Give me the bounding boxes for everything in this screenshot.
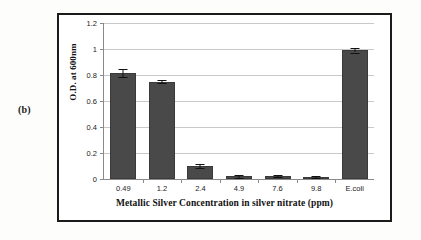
bar-group xyxy=(335,23,374,179)
panel-label: (b) xyxy=(18,104,31,115)
x-tick-label: E.coli xyxy=(346,184,364,193)
error-bar-cap-top xyxy=(119,69,128,70)
x-tick-label: 4.9 xyxy=(234,184,244,193)
x-tick-mark xyxy=(181,179,182,183)
y-tick-label: 0.4 xyxy=(87,123,97,132)
error-bar-cap-top xyxy=(350,48,359,49)
error-bar-cap-bottom xyxy=(196,168,205,169)
bar-series xyxy=(104,23,374,179)
figure-frame: O.D. at 600nm 00.20.40.60.811.2 0.491.22… xyxy=(57,13,392,222)
error-bar-cap-top xyxy=(234,175,243,176)
x-tick-label: 9.8 xyxy=(311,184,321,193)
error-bar-cap-bottom xyxy=(312,178,321,179)
y-tick-label: 0.2 xyxy=(87,149,97,158)
error-bar-cap-top xyxy=(312,176,321,177)
bar-group xyxy=(297,23,336,179)
y-tick-label: 0.8 xyxy=(87,71,97,80)
error-bar-cap-bottom xyxy=(119,77,128,78)
x-tick-mark xyxy=(335,179,336,183)
y-tick-mark xyxy=(100,179,104,180)
error-bar-cap-bottom xyxy=(234,178,243,179)
error-bar xyxy=(123,69,124,76)
error-bar-cap-bottom xyxy=(157,83,166,84)
x-tick-label: 7.6 xyxy=(272,184,282,193)
error-bar-cap-top xyxy=(196,164,205,165)
error-bar-cap-bottom xyxy=(273,177,282,178)
x-tick-mark xyxy=(258,179,259,183)
error-bar-cap-bottom xyxy=(350,53,359,54)
x-tick-label: 0.49 xyxy=(116,184,131,193)
bar-chart: O.D. at 600nm 00.20.40.60.811.2 0.491.22… xyxy=(59,15,390,220)
bar xyxy=(149,82,175,180)
bar-group xyxy=(143,23,182,179)
bar-group xyxy=(220,23,259,179)
bar xyxy=(110,73,136,179)
y-tick-label: 0 xyxy=(93,175,97,184)
x-tick-mark xyxy=(143,179,144,183)
x-tick-label: 2.4 xyxy=(195,184,205,193)
x-tick-mark xyxy=(220,179,221,183)
error-bar-cap-top xyxy=(273,175,282,176)
y-tick-label: 0.6 xyxy=(87,97,97,106)
x-axis-title: Metallic Silver Concentration in silver … xyxy=(59,198,390,208)
gridline xyxy=(104,179,374,180)
error-bar-cap-top xyxy=(157,80,166,81)
bar xyxy=(342,50,368,179)
y-tick-label: 1.2 xyxy=(87,19,97,28)
bar-group xyxy=(181,23,220,179)
x-tick-mark xyxy=(297,179,298,183)
bar-group xyxy=(104,23,143,179)
y-tick-label: 1 xyxy=(93,45,97,54)
bar-group xyxy=(258,23,297,179)
plot-area: 00.20.40.60.811.2 0.491.22.44.97.69.8E.c… xyxy=(103,23,374,180)
x-tick-label: 1.2 xyxy=(157,184,167,193)
y-axis-title: O.D. at 600nm xyxy=(68,12,78,132)
